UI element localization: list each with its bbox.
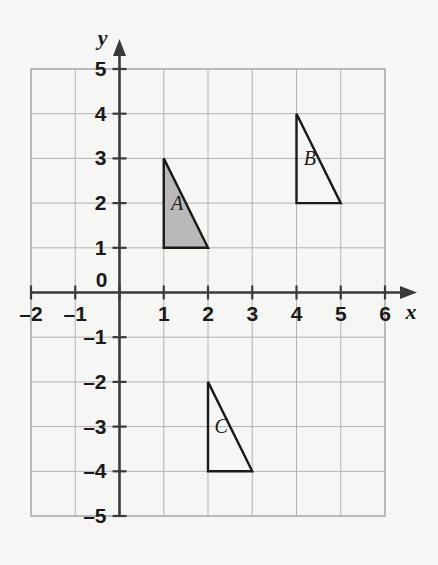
y-tick-label: –4 [83, 459, 107, 482]
x-tick-label: 1 [158, 302, 170, 325]
x-tick-label: 2 [202, 302, 214, 325]
coordinate-plane-graph: –2–1123456 –5–4–3–2–112345 0 yx ABC [0, 0, 438, 565]
y-tick-label: –2 [83, 370, 106, 393]
x-tick-label: 3 [246, 302, 258, 325]
x-tick-label: 4 [291, 302, 303, 325]
x-axis-label: x [405, 299, 417, 324]
y-tick-label: –5 [83, 504, 107, 527]
x-tick-label: 6 [379, 302, 391, 325]
coordinate-plane-figure: –2–1123456 –5–4–3–2–112345 0 yx ABC [0, 0, 438, 565]
origin-zero-label: 0 [96, 268, 108, 291]
y-tick-label: 4 [95, 102, 107, 125]
x-tick-label: 5 [335, 302, 347, 325]
triangle-label-c: C [215, 415, 229, 437]
y-tick-label: 1 [95, 236, 107, 259]
x-axis-tick-labels: –2–1123456 [19, 302, 391, 325]
origin-label: 0 [96, 268, 108, 291]
triangle-label-b: B [304, 147, 316, 169]
x-tick-label: –2 [19, 302, 42, 325]
y-tick-label: –1 [83, 325, 107, 348]
y-tick-label: 5 [95, 57, 107, 80]
y-tick-label: 2 [95, 191, 107, 214]
figure-background [0, 0, 438, 565]
y-tick-label: –3 [83, 415, 106, 438]
y-tick-label: 3 [95, 146, 107, 169]
triangle-label-a: A [169, 192, 184, 214]
x-tick-label: –1 [64, 302, 88, 325]
